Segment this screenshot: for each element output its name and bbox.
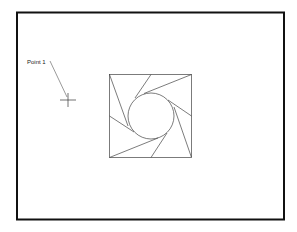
shutter-figure (110, 75, 192, 158)
drawing-frame (17, 13, 284, 220)
point-marker-icon (60, 93, 76, 107)
outer-square (110, 75, 192, 158)
point-label: Point 1 (27, 59, 46, 65)
inner-circle (128, 93, 174, 139)
leader-line (50, 61, 67, 97)
drawing-canvas: Point 1 (0, 0, 297, 232)
